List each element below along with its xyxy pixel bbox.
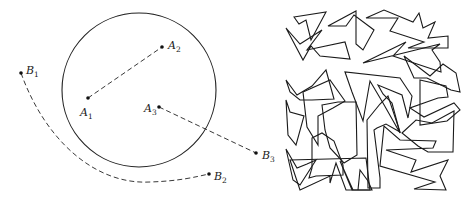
maze-polygon [380,126,448,190]
dashed-paths [21,47,256,182]
circle-paths-figure: A1A2A3B1B2B3 [19,13,275,185]
point-label-b3: B3 [261,149,275,164]
polygon-maze-figure [286,10,460,190]
point-label-b2: B2 [213,170,227,185]
maze-polygon [294,12,326,40]
point-b3 [254,151,258,155]
maze-polygon [404,56,460,92]
point-a3 [157,105,161,109]
boundary-circle [62,13,216,167]
maze-polygon [286,70,334,100]
dashed-path-a3-b3 [159,107,256,153]
point-label-b1: B1 [25,64,39,79]
maze-polygon [363,42,441,72]
point-b2 [207,172,211,176]
maze-polygon [366,10,448,48]
point-a1 [86,96,90,100]
figure-canvas: A1A2A3B1B2B3 [0,0,466,197]
point-b1 [19,71,23,75]
labeled-points: A1A2A3B1B2B3 [19,39,275,185]
maze-polygon [367,96,400,188]
maze-polygon [402,111,454,152]
point-label-a3: A3 [143,102,157,117]
maze-polygon [309,133,343,178]
maze-polygon [286,100,304,145]
point-a2 [160,45,164,49]
maze-polygon [303,80,345,145]
maze-polygon [286,28,350,60]
dashed-path-b1-b2 [21,73,209,182]
point-label-a1: A1 [79,106,93,121]
maze-polygon [410,80,460,125]
point-label-a2: A2 [167,39,181,54]
dashed-path-a1-a2 [88,47,162,98]
